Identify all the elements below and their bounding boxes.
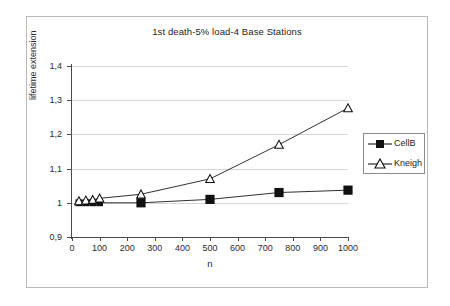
y-tick-label: 0,9 xyxy=(28,232,62,242)
x-tick-mark xyxy=(293,237,294,241)
x-tick-mark xyxy=(265,237,266,241)
x-tick-mark xyxy=(238,237,239,241)
legend-item-kneigh: Kneigh xyxy=(364,155,426,173)
x-tick-mark xyxy=(182,237,183,241)
x-tick-mark xyxy=(72,237,73,241)
legend-item-cellb: CellB xyxy=(364,135,426,153)
y-tick-label: 1,4 xyxy=(28,61,62,71)
gridline xyxy=(72,100,348,101)
x-tick-label: 500 xyxy=(202,243,217,253)
x-tick-label: 800 xyxy=(285,243,300,253)
y-tick-mark xyxy=(67,169,72,170)
x-tick-label: 300 xyxy=(147,243,162,253)
x-tick-label: 900 xyxy=(313,243,328,253)
legend-label-kneigh: Kneigh xyxy=(394,158,422,168)
gridline xyxy=(72,203,348,204)
x-axis-label: n xyxy=(72,258,348,269)
legend-label-cellb: CellB xyxy=(394,138,416,148)
y-tick-label: 1,2 xyxy=(28,129,62,139)
filled-square-marker-icon xyxy=(367,135,393,153)
x-tick-label: 600 xyxy=(230,243,245,253)
x-tick-label: 1000 xyxy=(338,243,358,253)
gridline xyxy=(72,66,348,67)
x-tick-label: 0 xyxy=(69,243,74,253)
y-tick-mark xyxy=(67,66,72,67)
x-tick-mark xyxy=(100,237,101,241)
x-tick-mark xyxy=(320,237,321,241)
y-tick-label: 1 xyxy=(28,198,62,208)
chart-legend: CellB Kneigh xyxy=(363,133,425,174)
gridline xyxy=(72,134,348,135)
y-tick-mark xyxy=(67,134,72,135)
x-tick-mark xyxy=(155,237,156,241)
y-tick-mark xyxy=(67,100,72,101)
chart-figure: 1st death-5% load-4 Base Stations lifeti… xyxy=(0,0,450,306)
x-tick-mark xyxy=(127,237,128,241)
open-triangle-marker-icon xyxy=(367,155,393,173)
x-tick-mark xyxy=(348,237,349,241)
gridline xyxy=(72,169,348,170)
y-tick-label: 1,3 xyxy=(28,95,62,105)
x-tick-label: 700 xyxy=(258,243,273,253)
y-axis-line xyxy=(71,64,72,239)
y-tick-mark xyxy=(67,203,72,204)
x-tick-label: 100 xyxy=(92,243,107,253)
chart-title: 1st death-5% load-4 Base Stations xyxy=(26,26,428,37)
x-tick-mark xyxy=(210,237,211,241)
plot-area xyxy=(72,66,348,237)
x-tick-label: 400 xyxy=(175,243,190,253)
x-tick-label: 200 xyxy=(120,243,135,253)
y-tick-label: 1,1 xyxy=(28,164,62,174)
